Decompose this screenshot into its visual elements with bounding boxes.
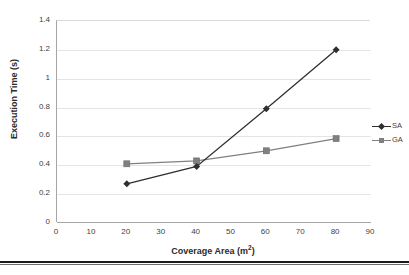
xtick-label-0: 0 (41, 228, 71, 236)
ytick-label-0.4: 0.4 (16, 160, 50, 168)
plot-area (56, 20, 370, 222)
data-point-ga-80 (333, 136, 339, 142)
ytick-label-0.6: 0.6 (16, 131, 50, 139)
xtick-label-40: 40 (181, 228, 211, 236)
footer-rule (0, 261, 409, 263)
xtick-label-80: 80 (320, 228, 350, 236)
series-line-ga (127, 139, 336, 164)
square-marker-icon (379, 138, 384, 143)
legend-item-sa[interactable]: SA (372, 119, 409, 133)
xtick-label-70: 70 (285, 228, 315, 236)
data-point-ga-20 (124, 161, 130, 167)
ytick-label-1.2: 1.2 (16, 45, 50, 53)
x-axis-title-base: Coverage Area (m (171, 246, 248, 256)
xtick-label-20: 20 (111, 228, 141, 236)
legend-label-ga: GA (391, 136, 403, 144)
y-axis-title: Execution Time (s) (9, 49, 19, 149)
xtick-label-90: 90 (355, 228, 385, 236)
series-plot (57, 21, 371, 223)
xtick-label-60: 60 (250, 228, 280, 236)
ytick-label-0.8: 0.8 (16, 103, 50, 111)
chart-figure: 1.4 1.2 1 0.8 0.6 0.4 0.2 0 0 10 20 30 4… (0, 0, 409, 275)
legend-swatch-ga (372, 135, 391, 145)
ytick-label-1.0: 1 (16, 74, 50, 82)
diamond-marker-icon (378, 122, 385, 129)
x-axis-title: Coverage Area (m2) (56, 244, 370, 256)
series-line-sa (127, 50, 336, 184)
x-axis-title-tail: ) (252, 246, 255, 256)
ytick-label-0: 0 (16, 218, 50, 226)
footer-rule-secondary (0, 264, 409, 265)
data-point-sa-20 (123, 180, 130, 187)
legend-swatch-sa (372, 121, 391, 131)
ytick-label-0.2: 0.2 (16, 189, 50, 197)
legend-item-ga[interactable]: GA (372, 133, 409, 147)
xtick-label-30: 30 (146, 228, 176, 236)
ytick-label-1.4: 1.4 (16, 16, 50, 24)
data-point-ga-60 (263, 148, 269, 154)
chart-legend: SA GA (372, 119, 409, 147)
legend-label-sa: SA (391, 122, 402, 130)
xtick-label-50: 50 (215, 228, 245, 236)
xtick-label-10: 10 (76, 228, 106, 236)
